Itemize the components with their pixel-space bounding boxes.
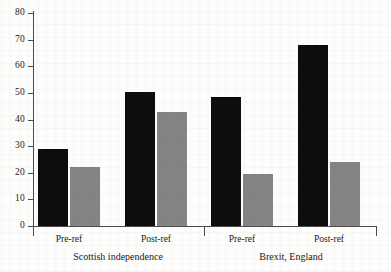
bar-chart: 01020304050607080 Pre-refPost-refPre-ref… <box>0 0 391 272</box>
x-axis-category-label: Post-ref <box>116 234 196 245</box>
x-axis-category-label: Post-ref <box>289 234 369 245</box>
y-axis-tick-label: 40 <box>0 115 25 125</box>
x-axis-group-label: Scottish independence <box>28 251 208 263</box>
x-axis-category-label: Pre-ref <box>202 234 282 245</box>
y-axis-tick-label: 10 <box>0 194 25 204</box>
bar-series-1-2 <box>211 97 241 226</box>
y-axis-tick-label: 30 <box>0 141 25 151</box>
y-axis-tick-label: 60 <box>0 61 25 71</box>
bar-series-1-0 <box>38 149 68 226</box>
y-axis-tick-label: 0 <box>0 221 25 231</box>
x-axis-group-divider <box>33 227 34 236</box>
x-axis-category-label: Pre-ref <box>29 234 109 245</box>
bar-series-2-3 <box>330 162 360 226</box>
y-axis-tick-label: 80 <box>0 8 25 18</box>
x-axis-group-divider <box>204 227 205 236</box>
x-axis-line <box>33 226 377 227</box>
x-axis-group-label: Brexit, England <box>201 251 381 263</box>
y-axis-tick-label: 50 <box>0 88 25 98</box>
bar-series-2-1 <box>157 112 187 226</box>
x-axis-group-divider <box>376 227 377 236</box>
plot-area <box>33 13 376 226</box>
bar-series-1-3 <box>298 45 328 226</box>
bar-series-1-1 <box>125 92 155 226</box>
bar-series-2-0 <box>70 167 100 226</box>
y-axis-tick-label: 20 <box>0 168 25 178</box>
y-axis-tick-label: 70 <box>0 35 25 45</box>
bar-series-2-2 <box>243 174 273 226</box>
